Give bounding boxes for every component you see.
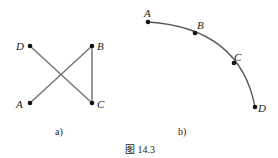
point-b	[90, 44, 95, 49]
figure-canvas: D B A C a) A B C D b) 图 14.3	[0, 0, 278, 158]
point-d	[28, 44, 33, 49]
label-b: B	[197, 19, 204, 31]
label-b: B	[97, 40, 104, 52]
panel-b: A B C D b)	[143, 7, 266, 138]
label-c: C	[97, 98, 105, 110]
panel-b-label: b)	[178, 126, 186, 138]
label-d: D	[15, 40, 24, 52]
panel-a: D B A C a)	[15, 40, 105, 138]
panel-a-label: a)	[55, 126, 63, 138]
label-c: C	[234, 51, 242, 63]
label-d: D	[257, 102, 266, 114]
point-d	[253, 105, 258, 110]
figure-caption: 图 14.3	[125, 144, 155, 155]
arc-curve	[148, 22, 255, 107]
label-a: A	[15, 98, 23, 110]
point-c	[90, 101, 95, 106]
label-a: A	[143, 7, 151, 19]
point-b	[193, 31, 198, 36]
point-a	[146, 20, 151, 25]
point-a	[28, 101, 33, 106]
